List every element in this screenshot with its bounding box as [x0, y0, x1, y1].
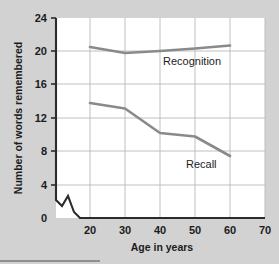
- x-tick-label-50: 50: [189, 224, 201, 236]
- series-annotation-recall: Recall: [186, 158, 217, 170]
- y-tick-label-20: 20: [35, 45, 47, 57]
- y-tick-label-0: 0: [41, 212, 47, 224]
- y-tick-label-4: 4: [41, 179, 48, 191]
- y-tick-label-16: 16: [35, 78, 47, 90]
- x-axis-title: Age in years: [131, 241, 194, 253]
- x-tick-label-30: 30: [119, 224, 131, 236]
- x-tick-label-40: 40: [154, 224, 166, 236]
- x-tick-label-70: 70: [259, 224, 271, 236]
- x-tick-label-60: 60: [224, 224, 236, 236]
- line-chart-figure: 24 20 16 12 8 4 0 20 30 40 50 60 70 Age …: [0, 0, 279, 264]
- x-tick-label-20: 20: [84, 224, 96, 236]
- y-axis-title: Number of words remembered: [12, 42, 24, 194]
- y-tick-label-12: 12: [35, 112, 47, 124]
- y-tick-label-8: 8: [41, 145, 47, 157]
- chart-svg: 24 20 16 12 8 4 0 20 30 40 50 60 70 Age …: [0, 0, 279, 264]
- y-tick-label-24: 24: [35, 12, 48, 24]
- series-annotation-recognition: Recognition: [163, 55, 221, 67]
